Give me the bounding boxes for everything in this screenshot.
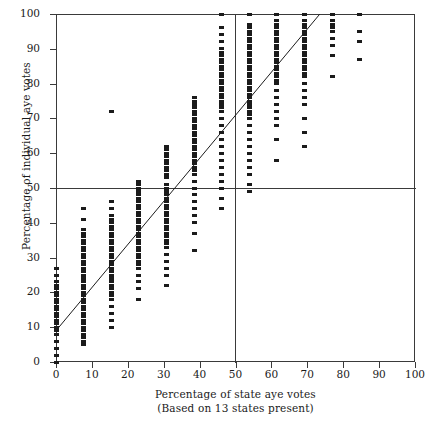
data-point — [109, 284, 114, 287]
data-point — [109, 246, 114, 249]
data-point — [109, 232, 114, 235]
data-point — [136, 260, 141, 263]
data-point — [164, 267, 169, 270]
data-point — [247, 51, 252, 54]
data-point — [136, 197, 141, 200]
data-point — [109, 270, 114, 273]
data-point — [136, 225, 141, 228]
data-point — [136, 253, 141, 256]
data-point — [247, 89, 252, 92]
data-point — [54, 329, 59, 332]
data-point — [247, 190, 252, 193]
data-point — [247, 61, 252, 64]
data-point — [192, 193, 197, 196]
data-point — [274, 61, 279, 64]
data-point — [164, 242, 169, 245]
data-point — [247, 58, 252, 61]
data-point — [192, 124, 197, 127]
data-point — [164, 253, 169, 256]
data-point — [54, 308, 59, 311]
data-point — [54, 312, 59, 315]
data-point — [192, 134, 197, 137]
data-point — [164, 260, 169, 263]
data-point — [81, 305, 86, 308]
data-point — [81, 270, 86, 273]
data-point — [54, 284, 59, 287]
y-tick — [50, 188, 56, 189]
data-point — [302, 68, 307, 71]
data-point — [164, 204, 169, 207]
data-point — [109, 214, 114, 217]
data-point — [219, 68, 224, 71]
data-point — [136, 228, 141, 231]
data-point — [109, 260, 114, 263]
data-point — [109, 287, 114, 290]
data-point — [330, 23, 335, 26]
data-point — [219, 54, 224, 57]
data-point — [164, 284, 169, 287]
y-tick-label: 10 — [0, 321, 40, 331]
data-point — [109, 239, 114, 242]
data-point — [192, 187, 197, 190]
data-point — [219, 197, 224, 200]
data-point — [274, 138, 279, 141]
y-tick — [50, 118, 56, 119]
data-point — [302, 145, 307, 148]
data-point — [219, 75, 224, 78]
data-point — [302, 19, 307, 22]
data-point — [357, 58, 362, 61]
data-point — [81, 249, 86, 252]
data-point — [54, 319, 59, 322]
data-point — [109, 242, 114, 245]
y-tick — [50, 49, 56, 50]
data-point — [81, 274, 86, 277]
data-point — [54, 361, 59, 364]
data-point — [81, 322, 86, 325]
data-point — [109, 298, 114, 301]
data-point — [247, 117, 252, 120]
data-point — [136, 214, 141, 217]
data-point — [54, 291, 59, 294]
data-point — [81, 235, 86, 238]
x-tick-label: 50 — [216, 368, 256, 380]
data-point — [192, 120, 197, 123]
data-point — [219, 100, 224, 103]
scatter-plot-figure: 0102030405060708090100010203040506070809… — [0, 0, 437, 429]
data-point — [192, 127, 197, 130]
data-point — [164, 197, 169, 200]
data-point — [247, 106, 252, 109]
y-tick — [50, 223, 56, 224]
data-point — [136, 267, 141, 270]
data-point — [81, 343, 86, 346]
data-point — [109, 294, 114, 297]
data-point — [302, 23, 307, 26]
data-point — [330, 13, 335, 16]
data-point — [164, 173, 169, 176]
data-point — [302, 131, 307, 134]
data-point — [81, 287, 86, 290]
data-point — [136, 298, 141, 301]
data-point — [81, 291, 86, 294]
data-point — [274, 51, 279, 54]
reference-line-vertical-50 — [235, 14, 236, 363]
data-point — [192, 152, 197, 155]
data-point — [54, 280, 59, 283]
data-point — [136, 218, 141, 221]
data-point — [219, 61, 224, 64]
data-point — [274, 117, 279, 120]
data-point — [81, 232, 86, 235]
x-tick-label: 60 — [251, 368, 291, 380]
data-point — [219, 47, 224, 50]
data-point — [81, 218, 86, 221]
data-point — [302, 65, 307, 68]
data-point — [164, 190, 169, 193]
data-point — [81, 319, 86, 322]
data-point — [274, 26, 279, 29]
data-point — [81, 326, 86, 329]
data-point — [81, 301, 86, 304]
data-point — [247, 75, 252, 78]
data-point — [136, 235, 141, 238]
data-point — [109, 207, 114, 210]
data-point — [247, 68, 252, 71]
data-point — [219, 96, 224, 99]
